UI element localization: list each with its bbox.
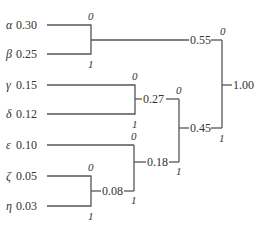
bit-label-0: 0 (88, 161, 94, 173)
bit-label-1: 1 (131, 194, 137, 206)
bit-label-0: 0 (131, 130, 137, 142)
edge (47, 85, 135, 114)
leaf-symbol: δ (6, 107, 12, 121)
leaf-eta: η 0.03 (6, 199, 37, 213)
huffman-tree-diagram: α 0.30 β 0.25 γ 0.15 δ 0.12 ε 0.10 ζ 0.0… (0, 0, 261, 231)
leaf-prob: 0.10 (16, 138, 37, 152)
merge-027-018: 0.45 1 (179, 99, 225, 162)
leaf-zeta: ζ 0.05 (6, 169, 37, 183)
leaf-prob: 0.12 (16, 107, 37, 121)
edge (47, 25, 91, 54)
edge (47, 176, 91, 206)
node-label-0.55: 0.55 (190, 33, 211, 47)
merge-gamma-delta: 0 1 0.27 0 (47, 70, 182, 130)
leaf-prob: 0.05 (16, 169, 37, 183)
leaf-prob: 0.25 (16, 47, 37, 61)
leaf-prob: 0.03 (16, 199, 37, 213)
node-label-0.45: 0.45 (190, 121, 211, 135)
leaf-symbol: β (5, 47, 12, 61)
bit-label-1: 1 (88, 210, 94, 222)
leaf-symbol: α (6, 18, 13, 32)
bit-label-0: 0 (176, 84, 182, 96)
leaf-delta: δ 0.12 (6, 107, 37, 121)
bit-label-1: 1 (88, 58, 94, 70)
node-label-0.27: 0.27 (143, 92, 164, 106)
leaf-epsilon: ε 0.10 (6, 138, 37, 152)
bit-label-0: 0 (132, 70, 138, 82)
leaf-symbol: η (6, 199, 12, 213)
leaf-symbol: γ (6, 78, 11, 92)
node-label-0.08: 0.08 (102, 184, 123, 198)
leaf-symbol: ε (6, 138, 11, 152)
leaf-alpha: α 0.30 (6, 18, 37, 32)
bit-label-0: 0 (220, 25, 226, 37)
bit-label-1: 1 (219, 132, 225, 144)
leaf-beta: β 0.25 (5, 47, 37, 61)
merge-zeta-eta: 0 1 0.08 (47, 161, 134, 222)
bit-label-1: 1 (132, 118, 138, 130)
leaf-prob: 0.15 (16, 78, 37, 92)
merge-alpha-beta: 0 1 0.55 0 (47, 10, 226, 70)
bit-label-0: 0 (88, 10, 94, 22)
bit-label-1: 1 (176, 165, 182, 177)
root-node: 1.00 (222, 40, 254, 128)
leaf-symbol: ζ (6, 169, 12, 183)
node-label-0.18: 0.18 (147, 155, 168, 169)
leaf-prob: 0.30 (16, 18, 37, 32)
node-label-root: 1.00 (233, 78, 254, 92)
leaf-gamma: γ 0.15 (6, 78, 37, 92)
